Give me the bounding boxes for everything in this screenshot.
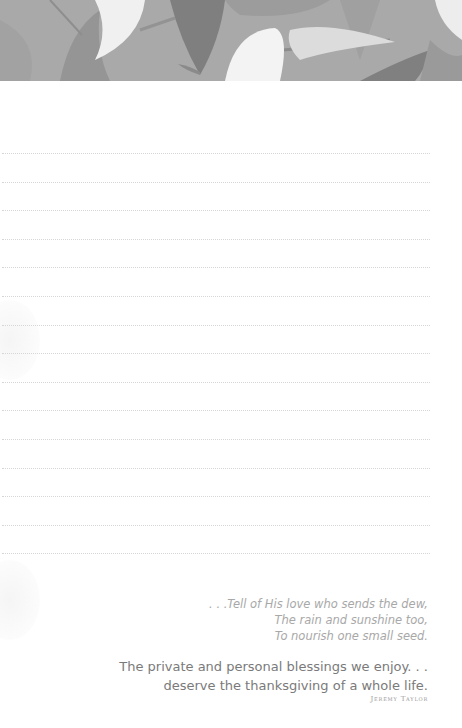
poem-line: . . .Tell of His love who sends the dew,	[209, 596, 428, 612]
faint-watermark	[0, 560, 40, 640]
writing-line	[2, 210, 430, 211]
writing-line	[2, 410, 430, 411]
writing-line	[2, 182, 430, 183]
quote: The private and personal blessings we en…	[119, 657, 428, 695]
writing-line	[2, 439, 430, 440]
writing-line	[2, 496, 430, 497]
writing-line	[2, 525, 430, 526]
quote-line: The private and personal blessings we en…	[119, 657, 428, 676]
writing-line	[2, 382, 430, 383]
poem-line: The rain and sunshine too,	[209, 612, 428, 628]
writing-line	[2, 267, 430, 268]
quote-author: Jeremy Taylor	[371, 695, 428, 703]
header-floral-image	[0, 0, 462, 81]
quote-line: deserve the thanksgiving of a whole life…	[119, 676, 428, 695]
writing-line	[2, 468, 430, 469]
writing-line	[2, 296, 430, 297]
writing-line	[2, 153, 430, 154]
writing-line	[2, 353, 430, 354]
faint-watermark	[0, 300, 40, 380]
poem-excerpt: . . .Tell of His love who sends the dew,…	[209, 596, 428, 644]
writing-line	[2, 325, 430, 326]
writing-line	[2, 239, 430, 240]
calla-lily-illustration	[0, 0, 462, 81]
writing-line	[2, 553, 430, 554]
poem-line: To nourish one small seed.	[209, 628, 428, 644]
